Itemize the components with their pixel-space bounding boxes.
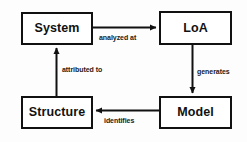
node-system[interactable]: System [21,12,93,45]
node-model[interactable]: Model [159,96,232,129]
node-system-label: System [34,22,79,35]
node-structure-label: Structure [29,106,85,119]
node-loa-label: LoA [183,22,208,35]
edge-label-identifies: identifies [104,117,134,124]
edge-label-attributed-to: attributed to [62,66,102,73]
edge-label-generates: generates [197,68,230,75]
node-structure[interactable]: Structure [21,96,93,129]
edge-label-analyzed-at: analyzed at [99,34,136,41]
node-loa[interactable]: LoA [159,11,232,45]
node-model-label: Model [177,106,214,119]
diagram-canvas: System LoA Model Structure analyzed at g… [0,0,247,142]
